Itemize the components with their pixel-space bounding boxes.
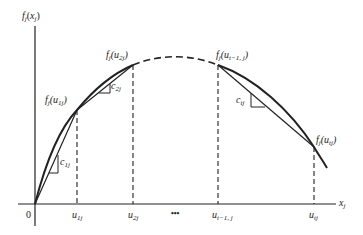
curve-dashed-middle bbox=[133, 57, 218, 65]
slope-label-c2: c2j bbox=[111, 81, 121, 93]
chord-2 bbox=[77, 65, 133, 110]
slope-label-c1: c1j bbox=[60, 157, 70, 169]
origin-label: 0 bbox=[26, 210, 31, 220]
tick-ellipsis: ••• bbox=[171, 210, 179, 218]
tick-label-ut1: ut−1, j bbox=[212, 210, 233, 222]
tick-label-u1: u1j bbox=[72, 210, 82, 222]
slope-label-ct: ctj bbox=[236, 95, 244, 107]
y-axis-label: fj(xj) bbox=[22, 11, 40, 23]
piecewise-linear-approximation-diagram: fj(xj) xj 0 u1j u2j ••• ut−1, j utj fj(u… bbox=[0, 0, 363, 235]
point-label-ut1: fj(ut−1, j) bbox=[216, 50, 248, 62]
tick-label-u2: u2j bbox=[128, 210, 138, 222]
chord-1 bbox=[35, 110, 77, 204]
curve-solid-right bbox=[218, 65, 327, 168]
point-label-ut: fj(utj) bbox=[316, 135, 336, 147]
chord-t bbox=[218, 65, 314, 147]
x-axis-label: xj bbox=[339, 198, 345, 210]
point-label-u1: fj(u1j) bbox=[45, 95, 67, 107]
point-label-u2: fj(u2j) bbox=[106, 50, 128, 62]
diagram-graphics bbox=[0, 0, 363, 235]
tick-label-ut: utj bbox=[309, 210, 318, 222]
